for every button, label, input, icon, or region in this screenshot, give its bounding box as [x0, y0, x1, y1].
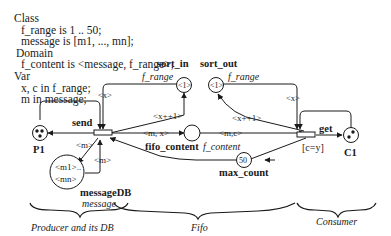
- guard-get: [c=y]: [302, 142, 324, 153]
- arc-label-fifo-to-get: <m,c>: [219, 128, 242, 138]
- marking-max-count: 50: [239, 156, 247, 165]
- label-sort-out: sort_out: [200, 58, 238, 69]
- label-message-db: messageDB: [80, 187, 131, 198]
- label-fifo-content: fifo_content: [145, 141, 199, 152]
- arc-label-get-to-sort-out: <x++1>: [232, 113, 261, 123]
- section-fifo: Fifo: [190, 222, 208, 233]
- token: [35, 129, 38, 132]
- token: [38, 134, 41, 137]
- label-c1: C1: [344, 147, 357, 158]
- label-sort-in: sort_in: [157, 58, 189, 69]
- marking-sort-in: <1>: [178, 81, 192, 90]
- label-p1: P1: [33, 144, 45, 155]
- marking-sort-out: <1>: [210, 81, 224, 90]
- domain-sort-in: f_range: [142, 71, 174, 82]
- marking-message-db-2: <mn>: [55, 174, 77, 184]
- arc-label-send-to-fifo: <m, x>: [143, 128, 169, 138]
- marking-message-db-1: <m1>..: [55, 162, 81, 172]
- token: [40, 129, 43, 132]
- arc-label-db-to-send: <m>: [94, 155, 111, 165]
- token: [351, 130, 354, 133]
- section-consumer: Consumer: [316, 216, 357, 227]
- place-c1: [344, 128, 359, 143]
- label-get: get: [319, 123, 333, 134]
- token: [347, 135, 350, 138]
- domain-fifo-content: f_content: [203, 141, 240, 152]
- domain-message-db: message: [82, 198, 116, 209]
- arc-label-sort-out-to-get: <x>: [286, 93, 300, 103]
- transition-send: [94, 130, 112, 135]
- brace-fifo: [114, 203, 295, 219]
- arc-label-send-to-sort-in: <x++1>: [153, 111, 182, 121]
- petri-net-diagram: P1 C1 sort_in f_range <1> sort_out f_ran…: [0, 0, 391, 236]
- arc-get-to-max-count: [248, 138, 306, 160]
- transition-get: [297, 132, 315, 137]
- brace-consumer: [297, 203, 376, 217]
- domain-sort-out: f_range: [228, 71, 260, 82]
- place-p1: [33, 126, 48, 141]
- place-fifo-content: [184, 125, 200, 141]
- arc-label-sort-in-to-send: <x>: [98, 90, 112, 100]
- label-max-count: max_count: [219, 167, 269, 178]
- arc-sort-in-to-send: [103, 84, 184, 129]
- section-producer: Producer and its DB: [30, 222, 114, 233]
- label-send: send: [72, 117, 93, 128]
- arc-label-send-to-db: <m>: [76, 140, 93, 150]
